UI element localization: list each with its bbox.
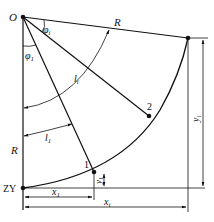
arc-dimension-li [24, 30, 109, 108]
label-point-1: 1 [84, 159, 89, 170]
center-point-o [21, 15, 26, 20]
label-y1: y1 [93, 177, 104, 185]
curve-point-1 [92, 170, 97, 175]
circular-curve [23, 38, 188, 188]
label-start-zy: ZY [3, 183, 16, 194]
label-arc-l1: l1 [45, 132, 51, 145]
curve-end-point [186, 36, 191, 41]
curve-layout-diagram: O ZY φi φ1 R R li l1 1 2 x1 xi y1 yi [0, 0, 214, 222]
label-center-o: O [9, 11, 17, 23]
label-yi: yi [190, 116, 203, 123]
label-point-2: 2 [147, 101, 152, 112]
start-point-zy [21, 186, 26, 191]
curve-point-2 [147, 114, 152, 119]
label-radius-left: R [10, 144, 18, 156]
label-phi-1: φ1 [25, 50, 34, 63]
line-o-to-point-1 [23, 17, 94, 172]
arc-dimension-l1 [24, 124, 72, 136]
label-radius-top: R [113, 16, 121, 28]
label-arc-li: li [74, 73, 79, 86]
angle-arc-phi-1 [23, 45, 36, 46]
